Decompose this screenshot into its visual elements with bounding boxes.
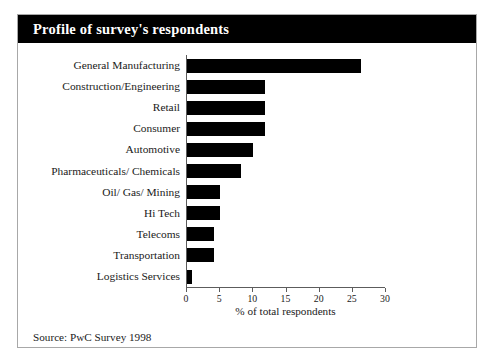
category-label: Construction/Engineering <box>62 76 180 97</box>
bar <box>187 80 265 94</box>
x-tick-label: 15 <box>281 293 291 304</box>
bar <box>187 270 192 284</box>
category-label: Retail <box>153 97 180 118</box>
category-label: General Manufacturing <box>73 55 180 76</box>
bar <box>187 101 265 115</box>
category-label: Telecoms <box>137 224 180 245</box>
x-tick-label: 30 <box>380 293 390 304</box>
source-note: Source: PwC Survey 1998 <box>33 331 151 343</box>
x-tick <box>385 288 386 292</box>
category-label: Transportation <box>113 245 180 266</box>
chart-title: Profile of survey's respondents <box>18 21 229 38</box>
bar <box>187 59 361 73</box>
bar <box>187 185 220 199</box>
x-tick-label: 20 <box>314 293 324 304</box>
x-tick-label: 0 <box>184 293 189 304</box>
category-label: Pharmaceuticals/ Chemicals <box>51 161 180 182</box>
x-tick-label: 10 <box>247 293 257 304</box>
category-label: Automotive <box>126 139 180 160</box>
x-tick <box>319 288 320 292</box>
bar <box>187 143 253 157</box>
chart-title-bar: Profile of survey's respondents <box>18 15 476 43</box>
category-label: Logistics Services <box>97 266 180 287</box>
x-tick-label: 5 <box>217 293 222 304</box>
x-axis-title: % of total respondents <box>186 305 385 317</box>
x-tick <box>252 288 253 292</box>
x-tick <box>186 288 187 292</box>
bar <box>187 206 220 220</box>
category-axis-labels: General ManufacturingConstruction/Engine… <box>18 55 186 287</box>
bar <box>187 164 241 178</box>
bar <box>187 122 265 136</box>
page-top-artifact <box>0 0 494 8</box>
category-label: Oil/ Gas/ Mining <box>102 182 180 203</box>
plot-area: General ManufacturingConstruction/Engine… <box>18 43 476 348</box>
chart-axes: 051015202530 <box>186 55 401 287</box>
x-tick <box>219 288 220 292</box>
chart-figure: Profile of survey's respondents General … <box>17 14 477 348</box>
x-tick <box>352 288 353 292</box>
category-label: Consumer <box>133 118 180 139</box>
x-tick <box>286 288 287 292</box>
category-label: Hi Tech <box>144 203 180 224</box>
bar <box>187 227 214 241</box>
bar <box>187 248 214 262</box>
x-tick-label: 25 <box>347 293 357 304</box>
